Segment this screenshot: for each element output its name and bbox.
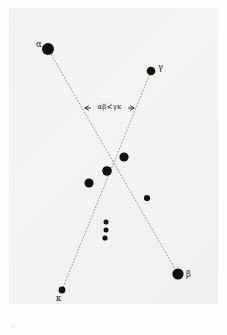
star-dot-star-6 [104, 228, 109, 233]
star-dots-group [42, 43, 184, 293]
star-label-kappa: κ [56, 294, 61, 303]
plate-corner-mark: ll [11, 322, 20, 329]
star-label-gamma: γ [158, 63, 163, 72]
star-label-alpha: α [36, 40, 42, 49]
figure-root: αγβκ αβ≮γκ ll [0, 0, 227, 335]
star-dot-star-5 [104, 220, 109, 225]
star-dot-star-2 [102, 166, 112, 176]
star-dot-star-7 [102, 235, 107, 240]
star-dot-gamma [147, 67, 156, 76]
star-label-beta: β [186, 270, 191, 279]
sight-lines-group [48, 49, 178, 290]
star-chart-svg [0, 0, 227, 335]
dimension-annotation-label: αβ≮γκ [92, 104, 127, 111]
star-dot-beta [172, 268, 183, 279]
star-dot-star-3 [85, 179, 94, 188]
star-dot-alpha [42, 43, 54, 55]
alpha-beta-line [48, 49, 178, 274]
star-dot-star-1 [119, 152, 128, 161]
star-dot-star-4 [144, 195, 150, 201]
